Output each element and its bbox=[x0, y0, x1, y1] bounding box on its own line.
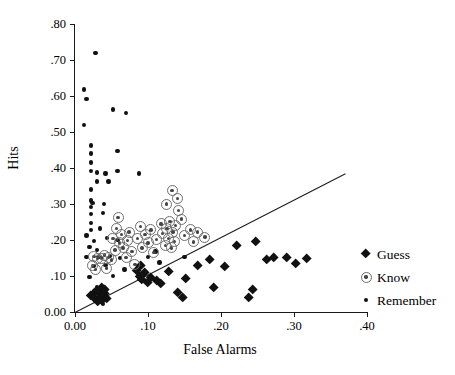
x-tick-label: 0.00 bbox=[51, 320, 99, 333]
y-tick-label: .30 bbox=[24, 198, 66, 211]
legend-label: Guess bbox=[377, 247, 410, 263]
y-tick-mark bbox=[70, 24, 74, 25]
data-point-remember bbox=[84, 233, 88, 237]
small-dot-icon bbox=[364, 298, 368, 302]
scatter-chart: Hits False Alarms 0.00.10.20.30.40.50.60… bbox=[0, 0, 455, 375]
data-point-remember bbox=[98, 226, 102, 230]
legend: GuessKnowRemember bbox=[363, 245, 455, 314]
data-point-know bbox=[113, 212, 124, 223]
data-point-remember bbox=[92, 239, 96, 243]
data-point-remember bbox=[115, 169, 119, 173]
data-point-know bbox=[161, 199, 172, 210]
data-point-guess bbox=[281, 252, 291, 262]
data-point-remember bbox=[89, 212, 93, 216]
y-tick-mark bbox=[70, 132, 74, 133]
x-tick-mark bbox=[75, 313, 76, 317]
y-tick-mark bbox=[70, 96, 74, 97]
filled-diamond-icon bbox=[361, 249, 371, 259]
y-tick-mark bbox=[70, 60, 74, 61]
data-point-remember bbox=[89, 205, 93, 209]
data-point-remember bbox=[157, 260, 161, 264]
data-point-remember bbox=[93, 51, 97, 55]
y-tick-mark bbox=[70, 204, 74, 205]
data-point-guess bbox=[302, 254, 312, 264]
data-point-remember bbox=[106, 179, 110, 183]
data-point-remember bbox=[87, 245, 91, 249]
data-point-guess bbox=[219, 262, 229, 272]
y-tick-label: .60 bbox=[24, 90, 66, 103]
data-point-remember bbox=[137, 171, 141, 175]
data-point-remember bbox=[82, 87, 86, 91]
data-point-remember bbox=[89, 228, 93, 232]
data-point-know bbox=[148, 247, 159, 258]
data-point-guess bbox=[205, 255, 215, 265]
data-point-remember bbox=[111, 274, 115, 278]
data-point-know bbox=[169, 236, 180, 247]
y-tick-label: .50 bbox=[24, 126, 66, 139]
y-tick-mark bbox=[70, 168, 74, 169]
x-tick-mark bbox=[294, 313, 295, 317]
data-point-remember bbox=[89, 160, 93, 164]
x-tick-label: .30 bbox=[270, 320, 318, 333]
data-point-remember bbox=[89, 221, 93, 225]
data-point-know bbox=[126, 246, 137, 257]
data-point-guess bbox=[208, 282, 218, 292]
data-point-remember bbox=[82, 123, 86, 127]
data-point-remember bbox=[89, 187, 93, 191]
y-tick-mark bbox=[70, 240, 74, 241]
y-tick-label: .40 bbox=[24, 162, 66, 175]
y-axis-title: Hits bbox=[6, 128, 22, 188]
x-tick-label: .40 bbox=[343, 320, 391, 333]
x-tick-label: .20 bbox=[197, 320, 245, 333]
x-axis-title: False Alarms bbox=[130, 342, 310, 358]
data-point-remember bbox=[115, 149, 119, 153]
x-tick-mark bbox=[221, 313, 222, 317]
y-tick-label: .20 bbox=[24, 234, 66, 247]
data-point-guess bbox=[232, 240, 242, 250]
y-tick-label: .80 bbox=[24, 18, 66, 31]
data-point-remember bbox=[122, 267, 126, 271]
data-point-remember bbox=[103, 171, 107, 175]
legend-label: Remember bbox=[377, 293, 436, 309]
y-axis-line bbox=[74, 24, 75, 313]
y-tick-label: .10 bbox=[24, 270, 66, 283]
data-point-know bbox=[106, 254, 117, 265]
data-point-remember bbox=[124, 111, 128, 115]
data-point-remember bbox=[111, 107, 115, 111]
data-point-guess bbox=[290, 258, 300, 268]
data-point-remember bbox=[182, 255, 186, 259]
data-point-know bbox=[176, 214, 187, 225]
y-tick-mark bbox=[70, 276, 74, 277]
data-point-know bbox=[199, 232, 210, 243]
data-point-guess bbox=[163, 266, 173, 276]
y-tick-mark bbox=[70, 312, 74, 313]
x-tick-mark bbox=[148, 313, 149, 317]
data-point-know bbox=[172, 193, 183, 204]
data-point-remember bbox=[95, 170, 99, 174]
y-tick-label: .70 bbox=[24, 54, 66, 67]
data-point-guess bbox=[251, 237, 261, 247]
data-point-guess bbox=[178, 292, 188, 302]
data-point-guess bbox=[192, 260, 202, 270]
data-point-guess bbox=[156, 279, 166, 289]
data-point-remember bbox=[89, 143, 93, 147]
data-point-remember bbox=[95, 179, 99, 183]
data-point-know bbox=[90, 264, 101, 275]
circled-dot-icon bbox=[361, 272, 372, 283]
y-tick-label: 0.00 bbox=[24, 306, 66, 319]
legend-item-know[interactable]: Know bbox=[363, 268, 455, 291]
data-point-remember bbox=[84, 97, 88, 101]
data-point-remember bbox=[101, 211, 105, 215]
legend-item-guess[interactable]: Guess bbox=[363, 245, 455, 268]
legend-item-remember[interactable]: Remember bbox=[363, 291, 455, 314]
data-point-guess bbox=[181, 274, 191, 284]
data-point-remember bbox=[102, 202, 106, 206]
legend-label: Know bbox=[377, 270, 410, 286]
data-point-remember bbox=[87, 275, 91, 279]
data-point-know bbox=[188, 236, 199, 247]
data-point-remember bbox=[89, 169, 93, 173]
x-tick-label: .10 bbox=[124, 320, 172, 333]
data-point-remember bbox=[89, 151, 93, 155]
